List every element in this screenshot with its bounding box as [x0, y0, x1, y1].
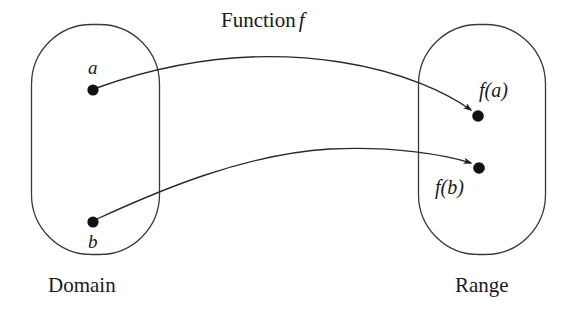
diagram-title: Functionf: [221, 10, 305, 31]
range-element-dot-fa: [472, 110, 484, 122]
mapping-arrow-b-to-fb: [97, 148, 471, 219]
domain-element-label-a: a: [88, 58, 98, 77]
range-element-label-fa: f(a): [479, 80, 508, 100]
domain-set-caption: Domain: [48, 275, 116, 296]
domain-element-dot-a: [87, 84, 98, 95]
diagram-title-word: Function: [221, 8, 296, 32]
domain-element-dot-b: [87, 216, 98, 227]
diagram-title-variable: f: [296, 8, 305, 32]
range-element-label-fb: f(b): [435, 177, 464, 197]
range-set-boundary: [419, 25, 546, 255]
domain-element-label-b: b: [88, 232, 98, 251]
range-element-dot-fb: [473, 162, 485, 174]
mapping-arrow-a-to-fa: [97, 57, 472, 110]
function-mapping-diagram: Functionf a b f(a) f(b) Domain Range: [0, 0, 563, 323]
range-set-caption: Range: [455, 275, 509, 296]
